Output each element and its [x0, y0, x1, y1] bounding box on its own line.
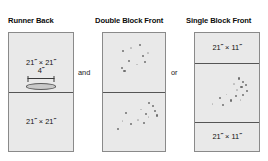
speckle-dot: [152, 105, 154, 107]
speckle-dot: [233, 83, 235, 85]
speckle-dot: [226, 94, 228, 96]
speckle-dot: [136, 64, 138, 66]
speckle-dot: [117, 128, 119, 130]
speckle-dot: [236, 89, 238, 91]
speckle-dot: [137, 119, 139, 121]
speckle-dot: [156, 114, 158, 116]
speckle-dot: [121, 67, 123, 69]
runner-back-opening-callout: 4˝: [9, 67, 73, 92]
speckle-dot: [245, 84, 247, 86]
single-block-top-section: 21˝ × 11˝: [195, 33, 259, 63]
double-block-top-section: [103, 33, 165, 92]
speckle-dot: [219, 97, 221, 99]
speckle-dot: [128, 60, 130, 62]
cutting-layout-diagram: Runner Back Double Block Front Single Bl…: [0, 0, 268, 161]
runner-back-top-dimension-label: 21˝ × 21˝: [26, 59, 56, 66]
runner-back-bottom-section: 21˝ × 21˝: [9, 92, 73, 151]
connector-and-label: and: [78, 69, 90, 76]
panel-heading-double-block-front: Double Block Front: [95, 17, 163, 25]
panel-runner-back: 21˝ × 21˝ 4˝ 21˝ × 21˝: [8, 32, 74, 152]
single-block-bottom-section: 21˝ × 11˝: [195, 122, 259, 152]
speckle-dot: [246, 90, 248, 92]
speckle-field-single-block-middle: [195, 64, 259, 122]
speckle-dot: [139, 44, 141, 46]
opening-measure-label: 4˝: [38, 67, 45, 74]
single-block-top-dimension-label: 21˝ × 11˝: [212, 44, 241, 51]
speckle-dot: [125, 112, 127, 114]
dimension-line-icon: [28, 78, 55, 79]
speckle-dot: [148, 116, 150, 118]
speckle-dot: [148, 102, 150, 104]
double-block-bottom-section: [103, 92, 165, 151]
speckle-dot: [140, 109, 142, 111]
speckle-dot: [235, 95, 237, 97]
speckle-dot: [240, 86, 242, 88]
speckle-dot: [242, 81, 244, 83]
speckle-dot: [122, 50, 124, 52]
speckle-dot: [123, 70, 125, 72]
speckle-dot: [240, 99, 242, 101]
speckle-dot: [238, 77, 240, 79]
speckle-dot: [130, 123, 132, 125]
panel-double-block-front: [102, 32, 166, 152]
panel-heading-single-block-front: Single Block Front: [186, 17, 251, 25]
speckle-dot: [242, 94, 244, 96]
panel-single-block-front: 21˝ × 11˝ 21˝ × 11˝: [194, 32, 260, 152]
runner-back-top-section: 21˝ × 21˝ 4˝: [9, 33, 73, 92]
connector-or-label: or: [171, 69, 178, 76]
speckle-dot: [222, 104, 224, 106]
speckle-dot: [142, 55, 144, 57]
speckle-dot: [147, 52, 149, 54]
speckle-dot: [122, 120, 124, 122]
ellipse-slit-icon: [26, 83, 56, 90]
speckle-field-double-block-top: [103, 33, 165, 92]
single-block-bottom-dimension-label: 21˝ × 11˝: [212, 133, 241, 140]
panel-heading-runner-back: Runner Back: [8, 17, 54, 25]
single-block-middle-section: [195, 63, 259, 122]
runner-back-bottom-dimension-label: 21˝ × 21˝: [26, 118, 56, 125]
speckle-field-double-block-bottom: [103, 93, 165, 151]
speckle-dot: [212, 103, 214, 105]
speckle-dot: [230, 99, 232, 101]
speckle-dot: [144, 61, 146, 63]
speckle-dot: [145, 113, 147, 115]
speckle-dot: [154, 110, 156, 112]
speckle-dot: [130, 47, 132, 49]
speckle-dot: [143, 122, 145, 124]
